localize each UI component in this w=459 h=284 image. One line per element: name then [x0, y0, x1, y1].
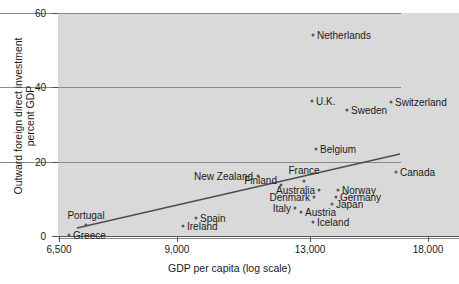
data-point-ireland	[182, 225, 185, 228]
data-point-u-k	[311, 100, 314, 103]
point-label-netherlands: Netherlands	[317, 30, 371, 41]
point-label-sweden: Sweden	[351, 105, 387, 116]
y-axis-title-line-1: Outward foreign direct investment	[12, 16, 24, 216]
data-point-italy	[294, 207, 297, 210]
data-point-denmark	[313, 196, 316, 199]
data-point-netherlands	[312, 34, 315, 37]
data-point-portugal	[85, 224, 88, 227]
data-point-france	[303, 180, 306, 183]
point-label-portugal: Portugal	[67, 210, 104, 221]
x-axis-title: GDP per capita (log scale)	[0, 262, 459, 274]
point-label-u-k: U.K.	[316, 96, 335, 107]
data-point-japan	[331, 203, 334, 206]
point-label-italy: Italy	[273, 203, 291, 214]
point-label-belgium: Belgium	[320, 144, 356, 155]
point-label-denmark: Denmark	[269, 192, 310, 203]
data-point-iceland	[312, 221, 315, 224]
data-point-sweden	[346, 109, 349, 112]
data-point-australia	[318, 189, 321, 192]
point-label-switzerland: Switzerland	[395, 97, 447, 108]
trend-line	[0, 0, 459, 284]
data-point-switzerland	[390, 101, 393, 104]
point-label-canada: Canada	[400, 167, 435, 178]
data-point-spain	[195, 217, 198, 220]
point-label-greece: Greece	[73, 230, 106, 241]
data-point-canada	[395, 171, 398, 174]
point-label-finland: Finland	[244, 175, 277, 186]
data-point-belgium	[315, 148, 318, 151]
y-axis-title-line-2: percent GDP	[24, 16, 36, 216]
data-point-greece	[68, 234, 71, 237]
y-axis-title: Outward foreign direct investment percen…	[12, 16, 36, 216]
scatter-chart-figure: 0204060 6,5009,00013,00018,000 Netherlan…	[0, 0, 459, 284]
point-label-ireland: Ireland	[187, 221, 218, 232]
point-label-iceland: Iceland	[317, 217, 349, 228]
point-label-france: France	[288, 165, 319, 176]
data-point-austria	[300, 211, 303, 214]
point-label-japan: Japan	[336, 199, 363, 210]
